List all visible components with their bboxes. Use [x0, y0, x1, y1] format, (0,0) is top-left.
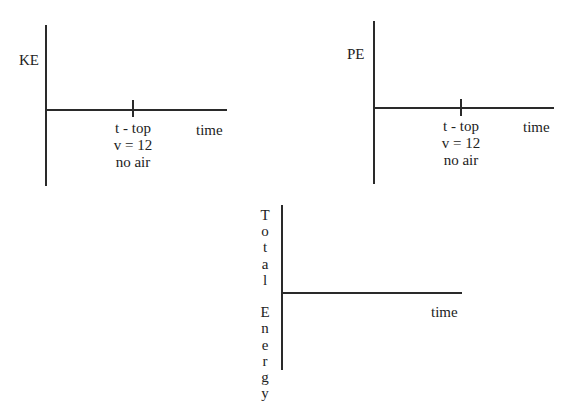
pe-tick-label-1: t - top: [431, 118, 491, 134]
total-y-axis: [281, 205, 283, 370]
ke-tick-label-2: v = 12: [103, 137, 163, 153]
ke-tick-label-3: no air: [103, 154, 163, 170]
ke-tick: [132, 100, 134, 117]
ke-x-axis: [45, 109, 227, 111]
pe-tick-label-2: v = 12: [431, 135, 491, 151]
pe-tick-label-3: no air: [431, 152, 491, 168]
pe-x-axis: [373, 107, 554, 109]
ke-x-label: time: [196, 122, 223, 138]
total-y-label: T o t a l E n e r g y: [258, 207, 272, 401]
ke-y-label: KE: [19, 52, 39, 68]
pe-y-axis: [373, 21, 375, 184]
pe-tick: [460, 99, 462, 116]
ke-y-axis: [45, 25, 47, 186]
total-x-label: time: [431, 304, 458, 320]
pe-y-label: PE: [347, 46, 365, 62]
ke-tick-label-1: t - top: [103, 120, 163, 136]
pe-x-label: time: [523, 119, 550, 135]
total-x-axis: [281, 292, 462, 294]
